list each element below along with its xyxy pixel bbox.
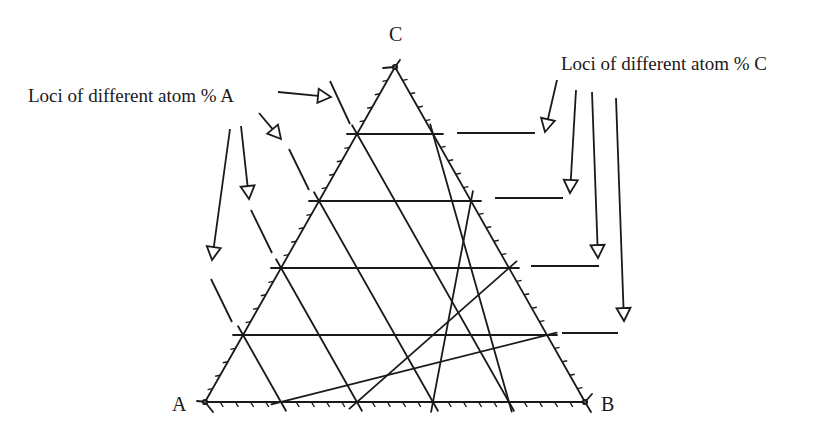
minor-tick bbox=[441, 146, 446, 147]
minor-tick bbox=[284, 255, 289, 256]
annotation-loci-c: Loci of different atom % C bbox=[561, 54, 767, 73]
minor-tick bbox=[337, 161, 342, 162]
locus-const-a bbox=[289, 149, 309, 190]
arrow-locus-c-3-head bbox=[591, 245, 605, 258]
minor-tick bbox=[425, 120, 430, 121]
triangle-grid bbox=[197, 60, 592, 412]
tick-marks bbox=[208, 79, 583, 407]
locus-const-a bbox=[330, 81, 350, 124]
minor-tick bbox=[577, 388, 582, 389]
vertex-dot-c bbox=[393, 65, 397, 69]
minor-tick bbox=[329, 174, 334, 175]
minor-tick bbox=[306, 214, 311, 215]
minor-tick bbox=[410, 93, 415, 94]
minor-tick bbox=[261, 295, 266, 296]
arrow-locus-a-1-head bbox=[317, 89, 331, 103]
minor-tick bbox=[517, 280, 522, 281]
arrow-locus-a-1 bbox=[278, 92, 318, 96]
arrow-locus-a-2-head bbox=[267, 125, 281, 139]
arrow-locus-a-3 bbox=[241, 126, 248, 186]
minor-tick bbox=[299, 228, 304, 229]
minor-tick bbox=[215, 375, 220, 376]
minor-tick bbox=[403, 79, 408, 80]
arrow-locus-c-4 bbox=[616, 98, 624, 308]
arrow-locus-c-1-head bbox=[541, 118, 555, 132]
minor-tick bbox=[494, 240, 499, 241]
locus-const-a bbox=[251, 210, 272, 253]
locus-const-a bbox=[211, 279, 232, 322]
vertex-label-c: C bbox=[389, 24, 402, 44]
minor-tick bbox=[448, 160, 453, 161]
loci-indicators bbox=[211, 81, 618, 333]
minor-tick bbox=[230, 348, 235, 349]
minor-tick bbox=[344, 147, 349, 148]
minor-tick bbox=[291, 241, 296, 242]
annotation-loci-a: Loci of different atom % A bbox=[28, 86, 234, 105]
minor-tick bbox=[360, 121, 365, 122]
vertex-label-b: B bbox=[601, 394, 614, 414]
minor-tick bbox=[524, 294, 529, 295]
minor-tick bbox=[268, 281, 273, 282]
minor-tick bbox=[367, 107, 372, 108]
minor-tick bbox=[570, 374, 575, 375]
minor-tick bbox=[418, 106, 423, 107]
minor-tick bbox=[463, 187, 468, 188]
minor-tick bbox=[223, 362, 228, 363]
arrow-locus-a-3-head bbox=[241, 185, 255, 199]
vertex-label-a: A bbox=[172, 394, 186, 414]
minor-tick bbox=[208, 389, 213, 390]
vertex-dot-b bbox=[583, 400, 587, 404]
arrow-locus-c-4-head bbox=[617, 308, 631, 321]
minor-tick bbox=[539, 321, 544, 322]
arrow-locus-c-1 bbox=[548, 80, 557, 119]
arrow-locus-c-3 bbox=[592, 92, 598, 245]
minor-tick bbox=[456, 173, 461, 174]
minor-tick bbox=[555, 347, 560, 348]
minor-tick bbox=[253, 308, 258, 309]
edge-ca bbox=[205, 67, 395, 402]
arrow-locus-c-2-head bbox=[564, 180, 578, 193]
minor-tick bbox=[375, 94, 380, 95]
minor-tick bbox=[322, 188, 327, 189]
minor-tick bbox=[532, 307, 537, 308]
edge-bc bbox=[395, 67, 585, 402]
minor-tick bbox=[246, 322, 251, 323]
arrow-locus-a-4 bbox=[214, 129, 230, 247]
arrow-locus-a-4-head bbox=[207, 246, 221, 260]
minor-tick bbox=[479, 213, 484, 214]
arrow-locus-a-2 bbox=[259, 113, 273, 129]
vertex-dot-a bbox=[203, 400, 207, 404]
minor-tick bbox=[501, 254, 506, 255]
minor-tick bbox=[562, 361, 567, 362]
arrow-locus-c-2 bbox=[571, 90, 576, 180]
gridline-const-a bbox=[238, 326, 286, 410]
minor-tick bbox=[486, 227, 491, 228]
minor-tick bbox=[382, 80, 387, 81]
